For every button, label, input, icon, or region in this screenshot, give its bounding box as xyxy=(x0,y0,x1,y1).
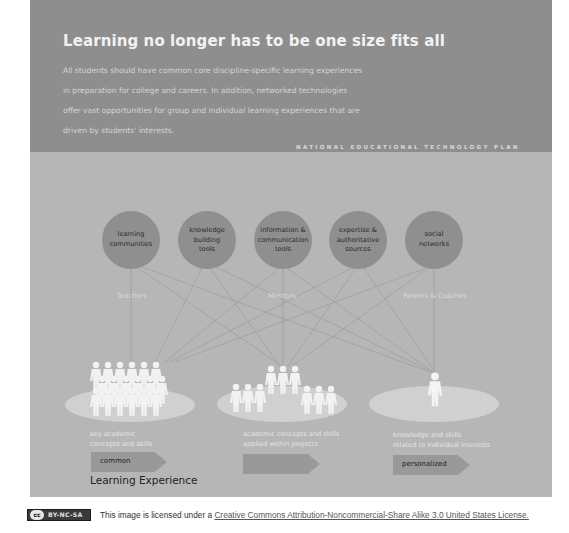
resource-label-line: learning xyxy=(102,230,160,240)
cc-badge-text: BY-NC-SA xyxy=(48,511,83,518)
connector-lines xyxy=(131,267,435,372)
resource-label-line: expertise & xyxy=(329,226,387,236)
resource-label-line: authoritative xyxy=(329,236,387,246)
group-desc-line: key academic xyxy=(90,429,153,439)
cc-license-badge[interactable]: cc BY-NC-SA xyxy=(27,509,91,521)
resource-learning-communities: learning communities xyxy=(102,230,160,249)
arrow-label: common xyxy=(100,457,131,465)
role-parents-coaches: Parents & Coaches xyxy=(403,292,467,300)
group-desc-line: applied within projects xyxy=(243,439,339,449)
arrow-personalized: personalized xyxy=(393,455,470,475)
resource-label-line: information & xyxy=(252,226,314,236)
resource-label-line: communication xyxy=(252,236,314,246)
group-desc-personalized: knowledge and skills related to individu… xyxy=(393,430,490,450)
arrow-common: common xyxy=(91,452,167,472)
resource-knowledge-building-tools: knowledge building tools xyxy=(178,226,236,255)
cc-icon: cc xyxy=(30,510,44,520)
license-text: This image is licensed under a Creative … xyxy=(100,510,529,520)
learning-experience-label: Learning Experience xyxy=(90,474,197,486)
license-link[interactable]: Creative Commons Attribution-Noncommerci… xyxy=(214,510,529,520)
resource-label-line: sources xyxy=(329,245,387,255)
resource-expertise-authoritative-sources: expertise & authoritative sources xyxy=(329,226,387,255)
resource-label-line: tools xyxy=(252,245,314,255)
group-desc-line: academic concepts and skills xyxy=(243,429,339,439)
license-prefix: This image is licensed under a xyxy=(100,510,214,520)
group-desc-projects: academic concepts and skills applied wit… xyxy=(243,429,339,449)
group-desc-line: concepts and skills xyxy=(90,439,153,449)
infographic-panel: Learning no longer has to be one size fi… xyxy=(30,0,552,497)
role-teachers: Teachers xyxy=(117,292,147,300)
group-desc-line: knowledge and skills xyxy=(393,430,490,440)
role-mentors: Mentors xyxy=(268,292,296,300)
resource-label-line: networks xyxy=(405,240,463,250)
resource-label-line: building xyxy=(178,236,236,246)
resource-social-networks: social networks xyxy=(405,230,463,249)
arrow-projects xyxy=(243,454,320,474)
group-desc-line: related to individual interests xyxy=(393,440,490,450)
resource-information-communication-tools: information & communication tools xyxy=(252,226,314,255)
resource-label-line: knowledge xyxy=(178,226,236,236)
resource-label-line: tools xyxy=(178,245,236,255)
resource-label-line: social xyxy=(405,230,463,240)
group-desc-common: key academic concepts and skills xyxy=(90,429,153,449)
resource-label-line: communities xyxy=(102,240,160,250)
arrow-label: personalized xyxy=(402,460,447,468)
license-footer: cc BY-NC-SA This image is licensed under… xyxy=(27,508,529,521)
